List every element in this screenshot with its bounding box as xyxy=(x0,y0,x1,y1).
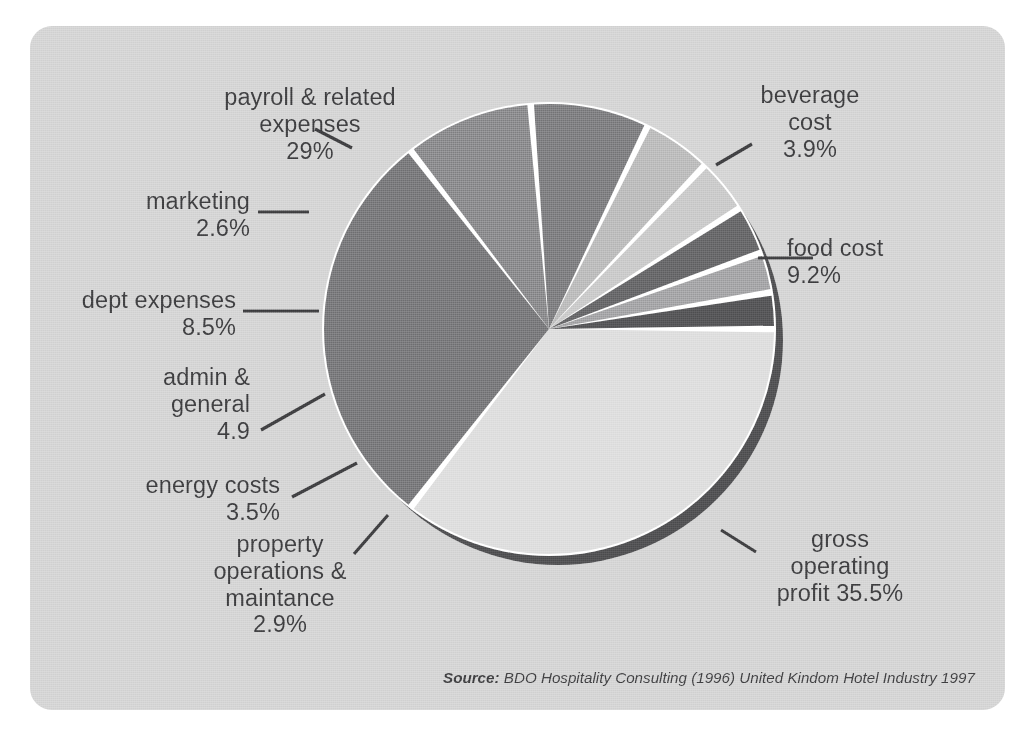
source-attribution: Source: BDO Hospitality Consulting (1996… xyxy=(443,669,975,686)
slice-label-energy-costs: energy costs 3.5% xyxy=(40,472,280,526)
pie-slices xyxy=(322,102,776,556)
chart-card: payroll & related expenses 29% marketing… xyxy=(30,26,1005,710)
slice-label-property-ops: property operations & maintance 2.9% xyxy=(175,531,385,638)
slice-label-payroll: payroll & related expenses 29% xyxy=(200,84,420,164)
slice-label-admin-general: admin & general 4.9 xyxy=(50,364,250,444)
source-prefix: Source: xyxy=(443,669,500,686)
slice-label-dept-expenses: dept expenses 8.5% xyxy=(30,287,236,341)
slice-label-marketing: marketing 2.6% xyxy=(50,188,250,242)
slice-label-gross-profit: gross operating profit 35.5% xyxy=(730,526,950,606)
slice-label-beverage-cost: beverage cost 3.9% xyxy=(720,82,900,162)
leader-line-admin-general xyxy=(261,394,325,430)
source-citation-text: BDO Hospitality Consulting (1996) United… xyxy=(504,669,975,686)
pie-chart-figure: payroll & related expenses 29% marketing… xyxy=(30,26,1005,710)
slice-label-food-cost: food cost 9.2% xyxy=(787,235,987,289)
leader-line-energy-costs xyxy=(292,463,357,497)
